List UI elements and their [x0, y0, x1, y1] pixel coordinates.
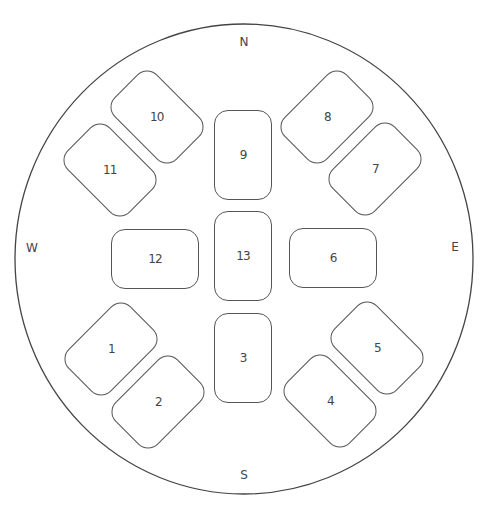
compass-north: N	[240, 35, 249, 49]
table-6[interactable]: 6	[289, 228, 377, 288]
table-number-label: 3	[240, 351, 247, 365]
table-number-label: 8	[324, 110, 331, 124]
table-number-label: 5	[374, 341, 381, 355]
table-number-label: 4	[327, 394, 334, 408]
compass-west: W	[26, 241, 38, 255]
compass-east: E	[451, 240, 459, 254]
table-13[interactable]: 13	[214, 211, 272, 301]
compass-south: S	[240, 468, 248, 482]
table-number-label: 12	[148, 252, 161, 266]
table-number-label: 10	[150, 110, 163, 124]
table-12[interactable]: 12	[111, 229, 199, 289]
table-number-label: 11	[103, 163, 116, 177]
table-number-label: 13	[236, 249, 249, 263]
table-9[interactable]: 9	[214, 110, 272, 200]
table-number-label: 6	[330, 251, 337, 265]
table-3[interactable]: 3	[214, 313, 272, 403]
table-number-label: 1	[108, 342, 115, 356]
table-number-label: 9	[240, 148, 247, 162]
table-number-label: 7	[372, 162, 379, 176]
table-number-label: 2	[155, 395, 162, 409]
